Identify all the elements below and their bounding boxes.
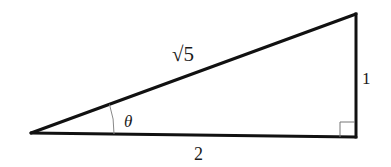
hypotenuse-label: √5: [172, 42, 194, 66]
adjacent-label: 2: [194, 144, 203, 164]
triangle-figure: √5 1 2 θ: [0, 0, 391, 167]
adjacent-side: [31, 133, 356, 137]
hypotenuse-side: [31, 14, 356, 133]
opposite-label: 1: [362, 69, 371, 88]
right-angle-marker: [340, 122, 355, 137]
right-triangle-diagram: √5 1 2 θ: [0, 0, 391, 167]
angle-arc: [110, 105, 115, 135]
angle-theta-label: θ: [124, 112, 132, 131]
